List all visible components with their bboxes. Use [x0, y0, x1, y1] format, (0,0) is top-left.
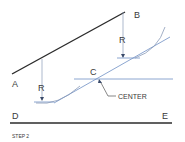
diagram-canvas: A B C D E R R CENTER STEP 2 — [0, 0, 185, 142]
line-ab — [12, 12, 125, 74]
step-label: STEP 2 — [12, 133, 29, 139]
label-center: CENTER — [118, 93, 147, 100]
label-r-left: R — [38, 83, 45, 93]
label-a: A — [12, 79, 18, 89]
arrow-left-r — [40, 97, 44, 101]
label-e: E — [162, 111, 168, 121]
center-leader-arrow — [98, 79, 102, 83]
arrow-right-r — [121, 54, 125, 58]
center-leader — [100, 81, 116, 96]
label-b: B — [134, 10, 140, 20]
label-r-right: R — [119, 35, 126, 45]
label-c: C — [90, 67, 97, 77]
label-d: D — [12, 111, 19, 121]
